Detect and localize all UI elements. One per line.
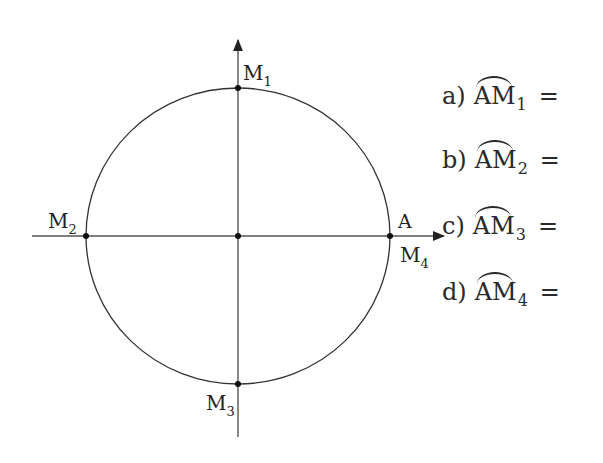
arc-subscript: 4: [518, 291, 528, 310]
arc-text: AM: [475, 278, 517, 306]
equals-sign: =: [538, 212, 558, 240]
question-letter: c): [442, 212, 465, 240]
question-c: c)AM3=: [442, 212, 558, 240]
arc-subscript: 3: [516, 225, 526, 244]
equals-sign: =: [540, 146, 560, 174]
arc-text: AM: [475, 146, 517, 174]
question-d: d)AM4=: [442, 278, 560, 306]
question-letter: b): [442, 146, 467, 174]
question-b: b)AM2=: [442, 146, 560, 174]
label-m3: M3: [206, 391, 235, 419]
label-m1: M1: [243, 61, 272, 89]
label-m4: M4: [400, 243, 429, 271]
arc-notation: AM: [473, 212, 515, 240]
point-m1: [235, 85, 241, 91]
question-letter: a): [442, 82, 466, 110]
point-m3: [235, 381, 241, 387]
arc-subscript: 2: [518, 159, 528, 178]
arc-text: AM: [474, 82, 516, 110]
arc-notation: AM: [474, 82, 516, 110]
arc-text: AM: [473, 212, 515, 240]
point-a-m4: [387, 233, 393, 239]
point-m2: [83, 233, 89, 239]
label-a: A: [397, 210, 412, 232]
center-point: [235, 233, 241, 239]
question-letter: d): [442, 278, 467, 306]
arc-notation: AM: [475, 278, 517, 306]
question-a: a)AM1=: [442, 82, 559, 110]
label-m2: M2: [48, 209, 77, 237]
arc-subscript: 1: [517, 95, 527, 114]
arc-notation: AM: [475, 146, 517, 174]
equals-sign: =: [539, 82, 559, 110]
equals-sign: =: [540, 278, 560, 306]
